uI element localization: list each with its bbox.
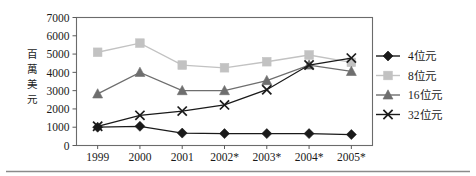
legend-label: 16位元 [408, 88, 443, 101]
y-axis-tick-label: 6000 [47, 30, 70, 42]
y-axis-tick-label: 4000 [47, 67, 70, 79]
x-axis-tick-label: 1999 [86, 151, 109, 163]
square-marker [305, 51, 314, 60]
y-axis-tick-label: 0 [64, 140, 70, 152]
chart-figure: 01000200030004000500060007000百萬美元1999200… [0, 0, 476, 176]
square-marker [136, 39, 145, 48]
legend-label: 4位元 [408, 49, 437, 62]
y-axis-tick-label: 1000 [47, 121, 70, 133]
y-axis-tick-label: 3000 [47, 85, 70, 97]
legend-label: 8位元 [408, 69, 437, 82]
line-chart: 01000200030004000500060007000百萬美元1999200… [0, 0, 476, 176]
square-marker [220, 63, 229, 72]
x-axis-tick-label: 2004* [295, 151, 324, 163]
square-marker [93, 48, 102, 57]
legend-label: 32位元 [408, 108, 443, 121]
x-axis-tick-label: 2005* [337, 151, 366, 163]
square-marker [178, 61, 187, 70]
y-axis-title-char: 元 [27, 94, 38, 105]
y-axis-title-char: 百 [27, 49, 37, 60]
x-axis-tick-label: 2002* [210, 151, 239, 163]
y-axis-tick-label: 7000 [47, 12, 70, 24]
square-marker [262, 57, 271, 66]
x-axis-tick-label: 2003* [252, 151, 281, 163]
square-marker [384, 71, 393, 80]
y-axis-tick-label: 2000 [47, 103, 70, 115]
x-axis-tick-label: 2000 [128, 151, 151, 163]
x-axis-tick-label: 2001 [171, 151, 194, 163]
y-axis-tick-label: 5000 [47, 48, 70, 60]
y-axis-title-char: 美 [27, 78, 38, 90]
y-axis-title-char: 萬 [27, 63, 37, 75]
